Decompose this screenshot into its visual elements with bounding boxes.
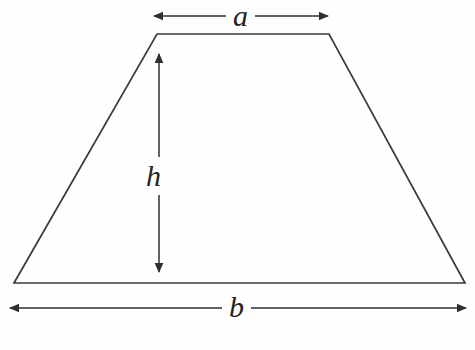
label-h: h [142, 157, 164, 195]
trapezoid-outline [14, 34, 465, 283]
label-b: b [222, 292, 251, 322]
trapezoid-diagram: a h b [0, 0, 475, 350]
label-a: a [226, 1, 255, 31]
